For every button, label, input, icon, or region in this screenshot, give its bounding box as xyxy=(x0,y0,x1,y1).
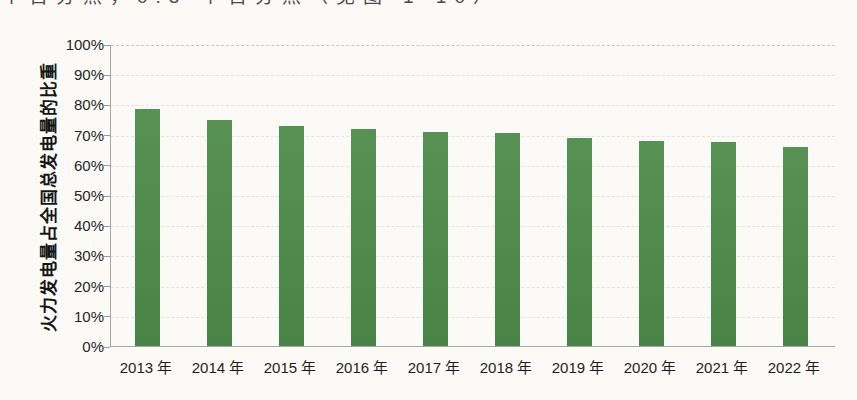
y-tick-label-90: 90% xyxy=(0,66,104,84)
y-tick-20 xyxy=(104,286,110,287)
y-tick-60 xyxy=(104,165,110,166)
bar-2019年 xyxy=(567,138,592,346)
y-tick-label-0: 0% xyxy=(0,338,104,356)
gridline-80 xyxy=(111,105,835,106)
y-tick-label-60: 60% xyxy=(0,157,104,175)
scanned-page: 个百分点，0.5 个百分点（见图 1-10） 火力发电量占全国总发电量的比重 0… xyxy=(0,0,857,400)
bar-2022年 xyxy=(783,147,808,346)
y-tick-label-40: 40% xyxy=(0,217,104,235)
gridline-90 xyxy=(111,75,835,76)
y-tick-label-20: 20% xyxy=(0,278,104,296)
y-tick-30 xyxy=(104,256,110,257)
bar-2013年 xyxy=(135,109,160,346)
bar-2014年 xyxy=(207,120,232,347)
y-tick-70 xyxy=(104,135,110,136)
y-tick-label-10: 10% xyxy=(0,308,104,326)
bar-2020年 xyxy=(639,141,664,346)
bar-2016年 xyxy=(351,129,376,346)
bar-2021年 xyxy=(711,142,736,346)
bar-2015年 xyxy=(279,126,304,346)
bar-2018年 xyxy=(495,133,520,346)
y-tick-label-30: 30% xyxy=(0,247,104,265)
y-tick-50 xyxy=(104,196,110,197)
y-tick-90 xyxy=(104,75,110,76)
y-tick-label-70: 70% xyxy=(0,127,104,145)
y-tick-label-80: 80% xyxy=(0,96,104,114)
bar-2017年 xyxy=(423,132,448,346)
plot-area xyxy=(110,45,835,347)
y-tick-label-50: 50% xyxy=(0,187,104,205)
y-tick-0 xyxy=(104,347,110,348)
x-tick-label-2022年: 2022 年 xyxy=(752,359,836,377)
thermal-power-share-bar-chart: 火力发电量占全国总发电量的比重 0%10%20%30%40%50%60%70%8… xyxy=(0,0,857,400)
y-tick-100 xyxy=(104,45,110,46)
y-tick-label-100: 100% xyxy=(0,36,104,54)
y-tick-10 xyxy=(104,316,110,317)
gridline-100 xyxy=(111,45,835,46)
y-tick-80 xyxy=(104,105,110,106)
y-tick-40 xyxy=(104,226,110,227)
